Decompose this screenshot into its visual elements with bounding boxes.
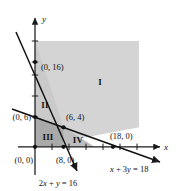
figure-canvas: y x (0, 16) (0, 6) (0, 0) (6, 4) (8, 0) …: [0, 0, 178, 191]
point-label-0-16: (0, 16): [41, 62, 64, 72]
eq1-mid: +: [47, 178, 56, 188]
line-equation-x-plus-3y-18: x + 3y = 18: [109, 164, 148, 174]
region-label-I: I: [98, 77, 102, 87]
line-equation-2x-plus-y-16: 2x + y = 16: [39, 178, 77, 188]
point-label-6-4: (6, 4): [66, 112, 85, 122]
point-label-18-0: (18, 0): [110, 131, 133, 141]
svg-text:2x + y = 16: 2x + y = 16: [39, 178, 77, 188]
vertex-dot-0-6: [33, 115, 37, 119]
point-label-8-0: (8, 0): [56, 155, 75, 165]
point-label-0-0: (0, 0): [15, 155, 34, 165]
vertex-dot-18-0: [111, 145, 115, 149]
x-axis-label: x: [163, 142, 168, 152]
region-label-II: II: [41, 100, 49, 110]
point-label-0-6: (0, 6): [13, 112, 32, 122]
coordinate-plane-svg: y x (0, 16) (0, 6) (0, 0) (6, 4) (8, 0) …: [0, 0, 178, 191]
vertex-dot-6-4: [61, 125, 65, 129]
vertex-dot-0-16: [33, 60, 37, 64]
region-label-IV: IV: [73, 135, 84, 145]
vertex-dot-8-0: [61, 145, 65, 149]
region-label-III: III: [42, 132, 53, 142]
svg-text:x + 3y = 18: x + 3y = 18: [109, 164, 148, 174]
y-axis-label: y: [41, 14, 46, 24]
eq1-tail: = 16: [60, 178, 78, 188]
eq2-mid: + 3: [114, 164, 127, 174]
eq2-tail: = 18: [131, 164, 149, 174]
vertex-dot-0-0: [33, 145, 37, 149]
